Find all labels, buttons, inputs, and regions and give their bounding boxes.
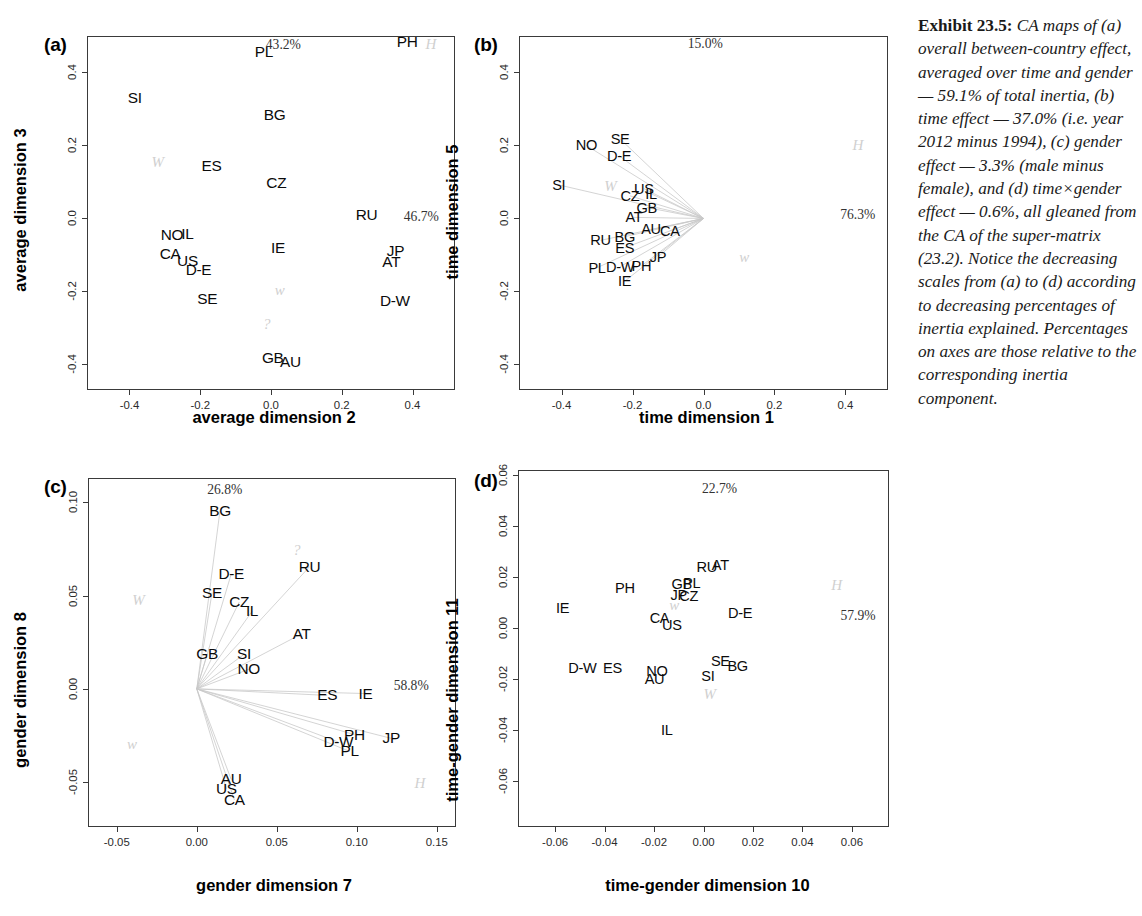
data-point-label: PL — [255, 43, 273, 61]
x-tick-a — [271, 390, 272, 395]
data-point-label: BG — [727, 658, 748, 674]
x-tick-d — [753, 827, 754, 832]
supplementary-point-c: H — [415, 775, 426, 792]
data-point-label: AT — [293, 625, 311, 643]
y-tick-c — [83, 502, 88, 503]
panel-label-b: (b) — [474, 34, 498, 56]
caption-exhibit-label: Exhibit 23.5: — [918, 16, 1013, 35]
y-tick-label-b: 0.0 — [498, 211, 510, 227]
y-tick-b — [514, 364, 519, 365]
panel-label-d: (d) — [474, 470, 498, 492]
x-tick-a — [200, 390, 201, 395]
x-axis-inertia-percent-a: 46.7% — [404, 209, 439, 225]
y-tick-label-d: -0.06 — [497, 768, 509, 794]
y-tick-d — [513, 730, 518, 731]
y-axis-inertia-percent-b: 15.0% — [688, 36, 723, 52]
supplementary-point-a: ? — [263, 316, 271, 333]
y-tick-label-a: 0.0 — [66, 211, 78, 227]
y-axis-inertia-percent-d: 22.7% — [702, 481, 737, 497]
y-tick-d — [513, 577, 518, 578]
x-tick-label-d: -0.04 — [592, 836, 618, 848]
supplementary-point-b: w — [739, 248, 749, 265]
data-point-label: CA — [660, 223, 680, 239]
x-axis-inertia-percent-d: 57.9% — [841, 608, 876, 624]
data-point-label: D-E — [607, 148, 631, 164]
data-point-label: SI — [128, 89, 142, 107]
data-point-label: D-E — [218, 565, 244, 583]
data-point-label: D-W — [380, 292, 410, 310]
data-point-label: IE — [556, 600, 569, 616]
y-tick-b — [514, 218, 519, 219]
y-tick-label-a: -0.4 — [66, 355, 78, 375]
y-tick-label-c: 0.10 — [67, 491, 79, 513]
y-tick-label-d: 0.04 — [497, 515, 509, 537]
data-point-label: IE — [271, 239, 285, 257]
y-tick-d — [513, 628, 518, 629]
data-point-label: RU — [590, 232, 610, 248]
y-tick-d — [513, 526, 518, 527]
data-point-label: ES — [615, 240, 634, 256]
x-tick-a — [413, 390, 414, 395]
y-tick-c — [83, 689, 88, 690]
y-tick-label-c: -0.05 — [67, 769, 79, 795]
data-point-label: D-W — [568, 660, 596, 676]
y-axis-title-d: time-gender dimension 11 — [443, 598, 462, 802]
y-axis-title-c: gender dimension 8 — [11, 612, 30, 768]
data-point-label: JP — [383, 729, 400, 747]
data-point-label: RU — [356, 206, 378, 224]
y-tick-b — [514, 72, 519, 73]
panel-label-a: (a) — [44, 34, 67, 56]
figure-caption: Exhibit 23.5: CA maps of (a) overall bet… — [918, 14, 1142, 410]
supplementary-point-b: H — [852, 137, 863, 154]
y-tick-a — [82, 145, 87, 146]
x-tick-c — [437, 827, 438, 832]
data-point-label: BG — [209, 502, 231, 520]
x-tick-c — [197, 827, 198, 832]
data-point-label: IL — [181, 225, 193, 243]
data-point-label: ES — [202, 157, 222, 175]
x-axis-title-a: average dimension 2 — [60, 408, 488, 427]
data-point-label: PH — [615, 580, 635, 596]
x-tick-b — [704, 390, 705, 395]
y-tick-b — [514, 145, 519, 146]
x-tick-label-c: 0.05 — [266, 836, 288, 848]
data-point-label: PL — [588, 260, 605, 276]
y-tick-label-b: 0.4 — [498, 65, 510, 81]
data-point-label: SE — [197, 290, 217, 308]
data-point-label: ES — [603, 660, 622, 676]
data-point-label: IE — [359, 685, 373, 703]
x-tick-label-c: 0.15 — [426, 836, 448, 848]
data-point-label: BG — [264, 106, 286, 124]
x-tick-a — [342, 390, 343, 395]
x-tick-label-c: 0.00 — [186, 836, 208, 848]
y-tick-a — [82, 218, 87, 219]
data-point-label: GB — [196, 645, 218, 663]
x-axis-inertia-percent-b: 76.3% — [840, 207, 875, 223]
supplementary-point-a: w — [275, 281, 285, 298]
x-tick-label-c: 0.10 — [346, 836, 368, 848]
y-tick-label-a: -0.2 — [66, 282, 78, 302]
x-tick-b — [633, 390, 634, 395]
data-point-label: JP — [650, 249, 666, 265]
data-point-label: AT — [625, 209, 642, 225]
data-point-label: IE — [618, 273, 631, 289]
y-tick-label-d: 0.00 — [497, 617, 509, 639]
x-tick-b — [845, 390, 846, 395]
data-point-label: SE — [611, 131, 630, 147]
supplementary-point-a: W — [152, 153, 165, 170]
y-tick-b — [514, 291, 519, 292]
data-point-label: ES — [317, 686, 337, 704]
x-tick-label-d: -0.06 — [542, 836, 568, 848]
y-tick-label-c: 0.00 — [67, 678, 79, 700]
plot-frame-b — [519, 36, 888, 390]
x-axis-title-c: gender dimension 7 — [60, 876, 488, 895]
figure-ca-maps: (a)-0.4-0.20.00.20.40.40.20.0-0.2-0.4ave… — [0, 0, 916, 916]
supplementary-point-c: ? — [293, 541, 301, 558]
y-tick-a — [82, 291, 87, 292]
data-point-label: PL — [340, 742, 358, 760]
supplementary-point-c: w — [127, 735, 137, 752]
y-tick-label-d: -0.04 — [497, 717, 509, 743]
plot-frame-c — [88, 478, 456, 827]
data-point-label: AU — [641, 221, 661, 237]
data-point-label: CZ — [679, 588, 698, 604]
